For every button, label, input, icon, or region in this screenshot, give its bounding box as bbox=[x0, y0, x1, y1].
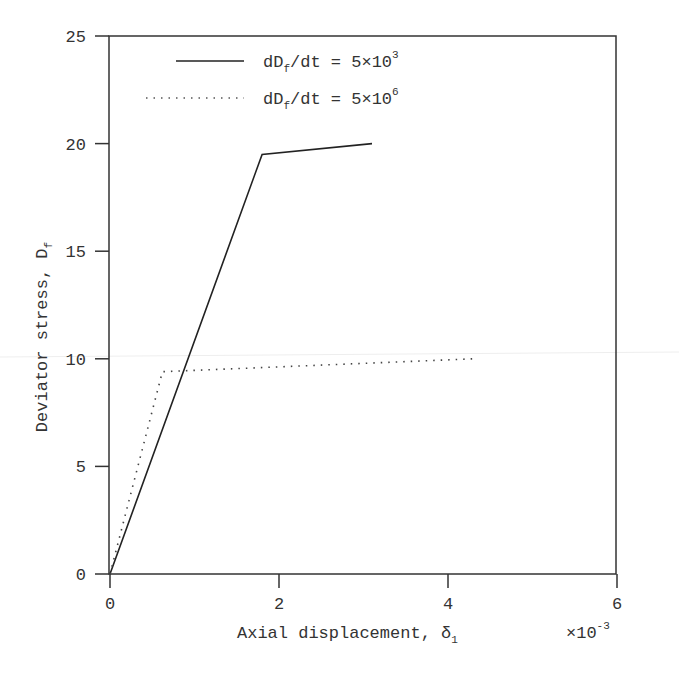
x-axis-ticks: 0246 bbox=[105, 574, 622, 614]
legend: dDf/dt = 5×103 dDf/dt = 5×106 bbox=[146, 49, 399, 112]
x-tick-label: 4 bbox=[443, 595, 453, 614]
x-tick-label: 2 bbox=[274, 595, 284, 614]
series-solid-line bbox=[110, 144, 372, 574]
x-tick-label: 0 bbox=[105, 595, 115, 614]
x-axis-label: Axial displacement, δ1 bbox=[237, 624, 458, 646]
series-dotted-line bbox=[110, 359, 473, 574]
y-axis-label: Deviator stress, Df bbox=[33, 242, 55, 432]
data-series bbox=[110, 144, 473, 574]
y-tick-label: 5 bbox=[76, 458, 86, 477]
legend-label-1: dDf/dt = 5×106 bbox=[263, 86, 399, 112]
y-tick-label: 25 bbox=[66, 28, 86, 47]
legend-label-0: dDf/dt = 5×103 bbox=[263, 49, 399, 75]
y-axis-ticks: 0510152025 bbox=[66, 28, 109, 585]
y-tick-label: 0 bbox=[76, 566, 86, 585]
plot-area bbox=[109, 36, 616, 574]
chart: 0510152025 0246 dDf/dt = 5×103 dDf/dt = … bbox=[0, 0, 679, 676]
x-tick-label: 6 bbox=[612, 595, 622, 614]
scan-artifact bbox=[0, 352, 679, 357]
y-tick-label: 15 bbox=[66, 243, 86, 262]
x-axis-multiplier: ×10-3 bbox=[566, 620, 610, 643]
y-tick-label: 10 bbox=[66, 351, 86, 370]
y-tick-label: 20 bbox=[66, 136, 86, 155]
plot-frame bbox=[109, 36, 616, 574]
